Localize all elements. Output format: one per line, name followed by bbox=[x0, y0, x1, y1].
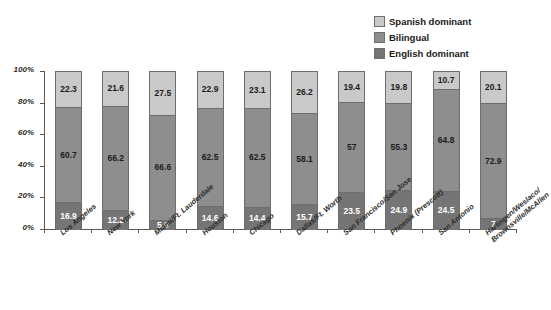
x-axis-category-labels: Los AngelesNew YorkMiami/Ft. LauderdaleH… bbox=[44, 231, 524, 310]
y-tick-label-20%: 20% bbox=[18, 191, 34, 200]
bar-segment: 64.8 bbox=[434, 89, 459, 191]
bar-column[interactable]: 21.666.212.2 bbox=[102, 71, 129, 229]
legend-item-bilingual: Bilingual bbox=[374, 30, 524, 44]
y-tick-label-80%: 80% bbox=[18, 97, 34, 106]
bar-column[interactable]: 10.764.824.5 bbox=[433, 71, 460, 229]
legend-swatch-bilingual bbox=[374, 32, 385, 43]
bar-segment-value: 19.4 bbox=[343, 83, 360, 92]
bar-segment: 22.9 bbox=[198, 72, 223, 108]
legend-item-spanish-dominant: Spanish dominant bbox=[374, 14, 524, 28]
bar-segment: 66.2 bbox=[103, 106, 128, 210]
bar-segment-value: 26.2 bbox=[296, 88, 313, 97]
bar-segment-value: 22.9 bbox=[202, 85, 219, 94]
bar-segment: 21.6 bbox=[103, 72, 128, 106]
bar-segment: 62.5 bbox=[245, 108, 270, 207]
bar-stack: 23.162.514.4 bbox=[244, 71, 271, 229]
bar-series-group: 22.360.716.921.666.212.227.566.65.922.96… bbox=[44, 71, 516, 229]
bar-segment: 23.1 bbox=[245, 72, 270, 108]
bar-segment: 10.7 bbox=[434, 72, 459, 89]
bar-stack: 26.258.115.7 bbox=[291, 71, 318, 229]
y-tick-label-40%: 40% bbox=[18, 160, 34, 169]
bar-column[interactable]: 27.566.65.9 bbox=[149, 71, 176, 229]
bar-segment-value: 21.6 bbox=[107, 84, 124, 93]
legend-label-english-dominant: English dominant bbox=[389, 48, 469, 59]
bar-stack: 22.360.716.9 bbox=[55, 71, 82, 229]
legend-label-spanish-dominant: Spanish dominant bbox=[389, 16, 471, 27]
bar-segment-value: 55.3 bbox=[391, 143, 408, 152]
bar-segment: 22.3 bbox=[56, 72, 81, 107]
bar-segment-value: 62.5 bbox=[249, 153, 266, 162]
bar-segment: 26.2 bbox=[292, 72, 317, 113]
bar-segment: 58.1 bbox=[292, 113, 317, 205]
bar-column[interactable]: 23.162.514.4 bbox=[244, 71, 271, 229]
bar-segment-value: 72.9 bbox=[485, 157, 502, 166]
bar-column[interactable]: 22.962.514.6 bbox=[197, 71, 224, 229]
bar-segment: 72.9 bbox=[481, 103, 506, 218]
bar-segment-value: 20.1 bbox=[485, 83, 502, 92]
bar-column[interactable]: 19.855.324.9 bbox=[385, 71, 412, 229]
bar-segment: 27.5 bbox=[150, 72, 175, 115]
plot-area: 0%20%40%60%80%100% 22.360.716.921.666.21… bbox=[44, 71, 516, 229]
bar-segment-value: 64.8 bbox=[438, 136, 455, 145]
bar-segment-value: 23.1 bbox=[249, 86, 266, 95]
bar-segment: 20.1 bbox=[481, 72, 506, 103]
bar-segment-value: 66.2 bbox=[107, 154, 124, 163]
bar-stack: 19.45723.5 bbox=[338, 71, 365, 229]
bar-segment-value: 22.3 bbox=[60, 85, 77, 94]
bar-column[interactable]: 19.45723.5 bbox=[338, 71, 365, 229]
y-tick-label-100%: 100% bbox=[14, 65, 34, 74]
bar-segment: 60.7 bbox=[56, 107, 81, 203]
bar-segment-value: 58.1 bbox=[296, 155, 313, 164]
legend-swatch-english-dominant bbox=[374, 48, 385, 59]
bar-segment-value: 24.5 bbox=[438, 206, 455, 215]
bar-segment-value: 24.9 bbox=[391, 206, 408, 215]
bar-stack: 10.764.824.5 bbox=[433, 71, 460, 229]
bar-segment-value: 62.5 bbox=[202, 153, 219, 162]
bar-segment-value: 10.7 bbox=[438, 76, 455, 85]
bar-segment-value: 60.7 bbox=[60, 151, 77, 160]
bar-stack: 19.855.324.9 bbox=[385, 71, 412, 229]
chart-legend: Spanish dominant Bilingual English domin… bbox=[374, 14, 524, 62]
bar-stack: 20.172.97 bbox=[480, 71, 507, 229]
bar-segment: 19.4 bbox=[339, 72, 364, 102]
legend-swatch-spanish-dominant bbox=[374, 16, 385, 27]
legend-label-bilingual: Bilingual bbox=[389, 32, 429, 43]
bar-column[interactable]: 20.172.97 bbox=[480, 71, 507, 229]
y-tick-label-0%: 0% bbox=[22, 223, 34, 232]
bar-segment-value: 66.6 bbox=[155, 163, 172, 172]
bar-segment: 19.8 bbox=[386, 72, 411, 103]
bar-segment: 66.6 bbox=[150, 115, 175, 220]
bar-stack: 27.566.65.9 bbox=[149, 71, 176, 229]
bar-column[interactable]: 22.360.716.9 bbox=[55, 71, 82, 229]
bar-segment-value: 23.5 bbox=[343, 207, 360, 216]
y-tick-label-60%: 60% bbox=[18, 128, 34, 137]
bar-segment: 57 bbox=[339, 102, 364, 192]
bar-segment-value: 57 bbox=[347, 143, 356, 152]
bar-column[interactable]: 26.258.115.7 bbox=[291, 71, 318, 229]
legend-item-english-dominant: English dominant bbox=[374, 46, 524, 60]
bar-segment-value: 19.8 bbox=[391, 83, 408, 92]
bar-stack: 22.962.514.6 bbox=[197, 71, 224, 229]
bar-segment-value: 27.5 bbox=[155, 89, 172, 98]
bar-stack: 21.666.212.2 bbox=[102, 71, 129, 229]
